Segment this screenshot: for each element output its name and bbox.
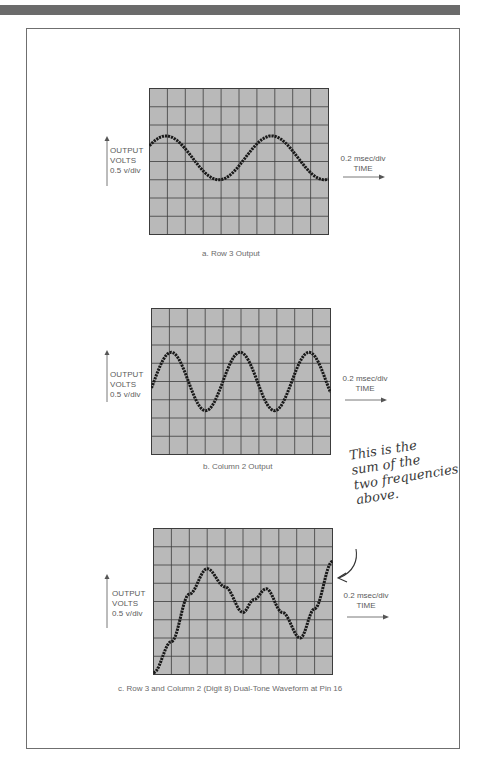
y-axis-label-b: OUTPUT VOLTS 0.5 v/div xyxy=(110,370,144,400)
x-axis-label-a: 0.2 msec/div TIME xyxy=(332,154,394,174)
x-label-line: 0.2 msec/div xyxy=(332,154,394,164)
x-label-line: 0.2 msec/div xyxy=(334,374,396,384)
caption-a: a. Row 3 Output xyxy=(202,249,260,258)
y-axis-label-a: OUTPUT VOLTS 0.5 v/div xyxy=(110,146,144,176)
y-label-line: OUTPUT xyxy=(110,370,144,380)
x-axis-label-b: 0.2 msec/div TIME xyxy=(334,374,396,394)
curved-pointer-arrow-icon xyxy=(334,548,364,588)
y-label-line: 0.5 v/div xyxy=(112,609,146,619)
x-label-line: TIME xyxy=(335,601,397,611)
y-axis-arrow-icon xyxy=(104,574,110,628)
y-label-line: VOLTS xyxy=(110,156,144,166)
oscilloscope-screen-b xyxy=(151,308,331,455)
y-axis-label-c: OUTPUT VOLTS 0.5 v/div xyxy=(112,589,146,619)
y-label-line: 0.5 v/div xyxy=(110,390,144,400)
y-label-line: 0.5 v/div xyxy=(110,166,144,176)
x-label-line: TIME xyxy=(334,384,396,394)
x-label-line: 0.2 msec/div xyxy=(335,591,397,601)
oscilloscope-screen-c xyxy=(153,528,333,675)
time-arrow-icon xyxy=(343,174,385,180)
y-label-line: VOLTS xyxy=(112,599,146,609)
time-arrow-icon xyxy=(345,397,387,403)
y-label-line: OUTPUT xyxy=(112,589,146,599)
y-label-line: OUTPUT xyxy=(110,146,144,156)
x-label-line: TIME xyxy=(332,164,394,174)
page-header-bar xyxy=(0,5,460,15)
time-arrow-icon xyxy=(347,614,389,620)
caption-b: b. Column 2 Output xyxy=(203,462,272,471)
y-label-line: VOLTS xyxy=(110,380,144,390)
x-axis-label-c: 0.2 msec/div TIME xyxy=(335,591,397,611)
oscilloscope-screen-a xyxy=(149,88,329,235)
caption-c: c. Row 3 and Column 2 (Digit 8) Dual-Ton… xyxy=(118,684,342,693)
